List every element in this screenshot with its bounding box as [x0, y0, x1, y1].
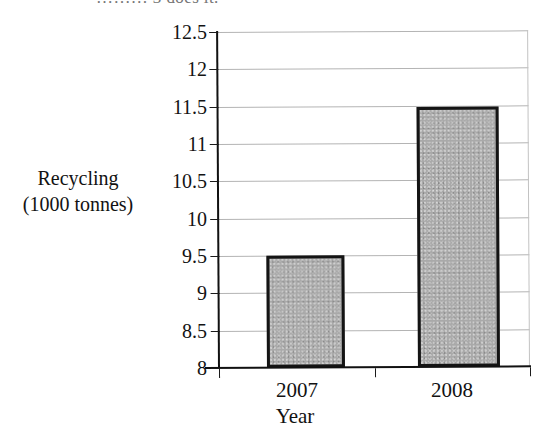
x-category-label-2007: 2007: [235, 379, 359, 401]
y-tick-label-12: 12: [147, 59, 207, 79]
bar-chart-figure: 12.5 12 11.5 11 10.5 10 9.5 9 8.5 8 Recy…: [0, 0, 538, 431]
y-tick-mark-11: [210, 144, 219, 145]
y-axis-tick-labels: 12.5 12 11.5 11 10.5 10 9.5 9 8.5 8: [145, 0, 207, 431]
y-tick-mark-11.5: [210, 107, 219, 108]
y-tick-label-10.5: 10.5: [147, 171, 207, 191]
y-tick-label-9.5: 9.5: [147, 246, 207, 266]
y-tick-label-11.5: 11.5: [147, 97, 207, 117]
y-tick-label-10: 10: [147, 209, 207, 229]
y-tick-label-9: 9: [147, 283, 207, 303]
plot-area: [217, 30, 530, 368]
y-tick-mark-9.5: [210, 256, 219, 257]
gridline-12.5: [217, 30, 528, 33]
y-tick-mark-12.5: [209, 32, 218, 33]
y-axis-title-line-2: (1000 tonnes): [8, 191, 148, 217]
y-tick-label-8.5: 8.5: [147, 321, 207, 341]
bar-2008[interactable]: [417, 106, 500, 366]
x-tick-mark-left: [219, 369, 220, 378]
x-tick-mark-right: [530, 367, 531, 376]
x-tick-mark-middle: [375, 368, 376, 377]
y-tick-label-11: 11: [147, 134, 207, 154]
y-tick-mark-10: [210, 219, 219, 220]
y-tick-mark-12: [209, 69, 218, 70]
gridline-12: [217, 67, 528, 70]
bar-2007[interactable]: [266, 255, 345, 367]
x-axis-line: [205, 365, 531, 369]
plot-border-right: [527, 30, 530, 366]
x-category-label-2008: 2008: [390, 379, 514, 401]
y-tick-label-12.5: 12.5: [147, 22, 207, 42]
y-axis-title: Recycling (1000 tonnes): [8, 165, 148, 217]
y-tick-mark-10.5: [210, 181, 219, 182]
y-axis-title-line-1: Recycling: [8, 165, 148, 191]
y-tick-label-8: 8: [147, 358, 207, 378]
y-tick-mark-8.5: [211, 331, 220, 332]
y-tick-mark-9: [211, 293, 220, 294]
x-axis-title: Year: [0, 404, 538, 429]
